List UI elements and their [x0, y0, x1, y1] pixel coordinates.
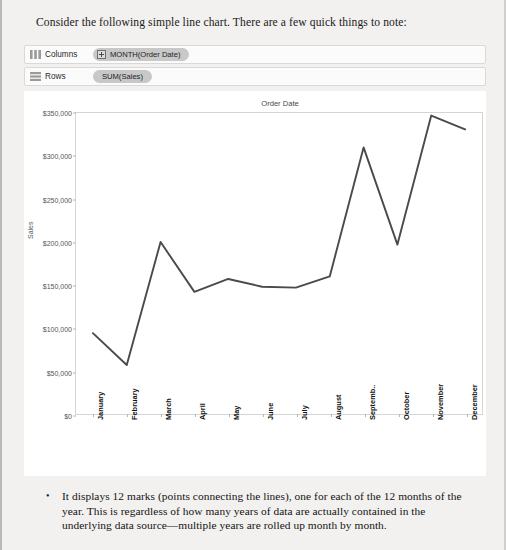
bullet-list-item: • It displays 12 marks (points connectin…	[46, 489, 478, 533]
x-axis-tick-label: August	[334, 395, 343, 420]
x-axis-tick-mark	[433, 414, 434, 417]
rows-shelf-label: Rows	[45, 72, 93, 81]
y-axis-tick-label: $150,000	[43, 283, 72, 290]
x-axis-tick-mark	[467, 414, 468, 417]
x-axis-tick-label: July	[300, 405, 309, 420]
x-axis-tick-label: Septemb..	[368, 385, 377, 420]
page-intro-text: Consider the following simple line chart…	[36, 16, 486, 30]
x-axis-tick-label: December	[470, 384, 479, 420]
y-axis-tick-label: $350,000	[43, 110, 72, 117]
y-axis-title: Sales	[27, 221, 34, 239]
pill-label: SUM(Sales)	[102, 72, 143, 81]
x-axis-tick-mark	[263, 414, 264, 417]
y-axis-tick-label: $0	[64, 413, 72, 420]
x-axis-tick-mark	[297, 414, 298, 417]
line-series-order-date-sales	[76, 113, 482, 414]
x-axis-tick-label: May	[232, 406, 241, 420]
x-axis-tick-label: October	[402, 392, 411, 420]
y-axis-tick-label: $50,000	[47, 369, 72, 376]
x-axis-tick-mark	[229, 414, 230, 417]
y-axis-tick-label: $300,000	[43, 153, 72, 160]
y-axis-tick-mark	[73, 242, 76, 243]
shelf-panel: Columns MONTH(Order Date) Rows SUM(Sales…	[24, 45, 486, 89]
y-axis-tick-mark	[73, 286, 76, 287]
x-axis-tick-label: January	[96, 392, 105, 420]
columns-shelf[interactable]: Columns MONTH(Order Date)	[24, 45, 486, 64]
x-axis-tick-label: June	[266, 403, 275, 420]
y-axis-tick-mark	[73, 372, 76, 373]
pill-sum-sales[interactable]: SUM(Sales)	[93, 70, 152, 83]
pill-label: MONTH(Order Date)	[110, 50, 180, 59]
chart-card: Order Date Sales $0$50,000$100,000$150,0…	[24, 91, 486, 476]
y-axis-tick-mark	[73, 113, 76, 114]
x-axis-tick-label: November	[436, 384, 445, 420]
rows-shelf[interactable]: Rows SUM(Sales)	[24, 67, 486, 86]
x-axis-tick-label: February	[130, 388, 139, 420]
expand-plus-icon[interactable]	[97, 50, 106, 59]
y-axis-tick-label: $200,000	[43, 239, 72, 246]
x-axis-tick-label: March	[164, 398, 173, 420]
x-axis-tick-label: April	[198, 403, 207, 420]
y-axis-tick-mark	[73, 329, 76, 330]
bullet-marker: •	[46, 489, 62, 533]
y-axis-tick-mark	[73, 199, 76, 200]
x-axis-tick-mark	[195, 414, 196, 417]
y-axis-tick-label: $100,000	[43, 326, 72, 333]
columns-shelf-label: Columns	[45, 50, 93, 59]
columns-grid-icon	[30, 50, 41, 59]
x-axis-tick-mark	[161, 414, 162, 417]
pill-month-order-date[interactable]: MONTH(Order Date)	[93, 48, 189, 61]
chart-plot-area[interactable]: $0$50,000$100,000$150,000$200,000$250,00…	[75, 112, 483, 415]
x-axis-tick-mark	[399, 414, 400, 417]
x-axis-tick-mark	[127, 414, 128, 417]
x-axis-tick-mark	[365, 414, 366, 417]
y-axis-tick-mark	[73, 156, 76, 157]
y-axis-tick-mark	[73, 416, 76, 417]
x-axis-tick-mark	[331, 414, 332, 417]
rows-grid-icon	[30, 72, 41, 81]
x-axis-tick-mark	[93, 414, 94, 417]
chart-title: Order Date	[74, 99, 486, 108]
page-canvas: Consider the following simple line chart…	[0, 0, 506, 550]
y-axis-tick-label: $250,000	[43, 196, 72, 203]
bullet-body-text: It displays 12 marks (points connecting …	[62, 489, 478, 533]
